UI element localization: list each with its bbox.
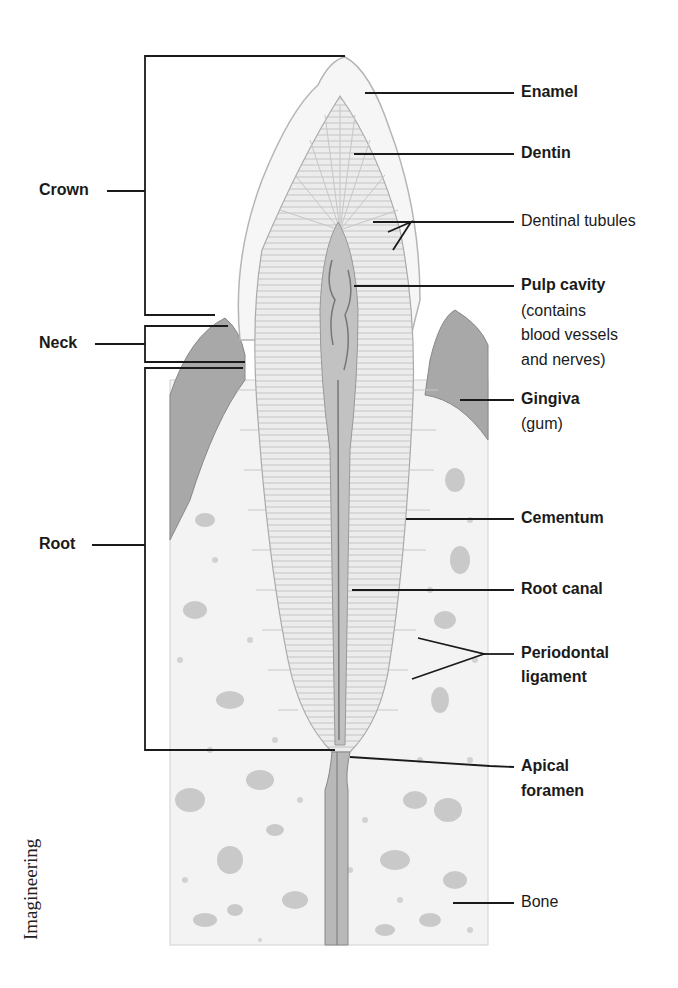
label-root: Root xyxy=(39,534,75,554)
tooth-illustration xyxy=(0,0,678,988)
label-gingiva: Gingiva xyxy=(521,389,580,409)
label-cementum: Cementum xyxy=(521,508,604,528)
label-bone: Bone xyxy=(521,892,558,912)
label-pulp-note-1: (contains xyxy=(521,301,586,321)
label-apical-1: Apical xyxy=(521,756,569,776)
label-gingiva-note: (gum) xyxy=(521,414,563,434)
label-dentin: Dentin xyxy=(521,143,571,163)
label-periodontal-2: ligament xyxy=(521,667,587,687)
label-pulp-note-3: and nerves) xyxy=(521,350,606,370)
label-apical-2: foramen xyxy=(521,781,584,801)
label-root-canal: Root canal xyxy=(521,579,603,599)
label-periodontal-1: Periodontal xyxy=(521,643,609,663)
label-pulp-cavity: Pulp cavity xyxy=(521,275,605,295)
label-pulp-note-2: blood vessels xyxy=(521,325,618,345)
label-enamel: Enamel xyxy=(521,82,578,102)
label-dentinal-tubules: Dentinal tubules xyxy=(521,211,636,231)
credit-text: Imagineering xyxy=(20,839,42,940)
label-crown: Crown xyxy=(39,180,89,200)
label-neck: Neck xyxy=(39,333,77,353)
